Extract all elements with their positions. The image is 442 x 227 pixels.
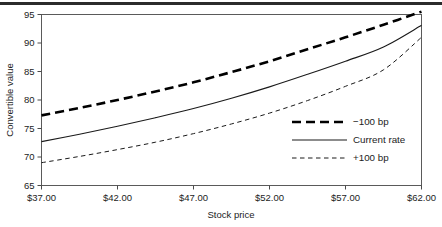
- x-tick-label: $52.00: [255, 192, 284, 203]
- x-axis-ticks: [42, 186, 422, 190]
- legend-label: Current rate: [353, 134, 406, 145]
- x-tick-label: $57.00: [331, 192, 360, 203]
- y-tick-label: 65: [24, 180, 35, 191]
- series-line-down100: [42, 12, 422, 116]
- y-tick-label: 85: [24, 66, 35, 77]
- x-tick-label: $42.00: [103, 192, 132, 203]
- chart-legend: −100 bpCurrent rate+100 bp: [292, 116, 406, 163]
- y-tick-label: 95: [24, 9, 35, 20]
- y-tick-label: 80: [24, 94, 35, 105]
- x-tick-label: $37.00: [27, 192, 56, 203]
- x-tick-label: $47.00: [179, 192, 208, 203]
- y-axis-tick-labels: 65707580859095: [24, 9, 35, 191]
- x-axis-tick-labels: $37.00$42.00$47.00$52.00$57.00$62.00: [27, 192, 436, 203]
- y-tick-label: 70: [24, 151, 35, 162]
- y-axis-title: Convertible value: [4, 63, 15, 136]
- y-tick-label: 75: [24, 123, 35, 134]
- y-axis-ticks: [38, 15, 42, 186]
- legend-label: −100 bp: [353, 116, 389, 127]
- figure-container: 65707580859095 Convertible value $37.00$…: [0, 0, 442, 227]
- y-tick-label: 90: [24, 37, 35, 48]
- convertible-value-chart: 65707580859095 Convertible value $37.00$…: [0, 0, 442, 227]
- x-axis-title: Stock price: [208, 209, 255, 220]
- y-axis: 65707580859095 Convertible value: [4, 9, 42, 191]
- x-tick-label: $62.00: [407, 192, 436, 203]
- x-axis: $37.00$42.00$47.00$52.00$57.00$62.00 Sto…: [27, 186, 436, 221]
- legend-label: +100 bp: [353, 152, 389, 163]
